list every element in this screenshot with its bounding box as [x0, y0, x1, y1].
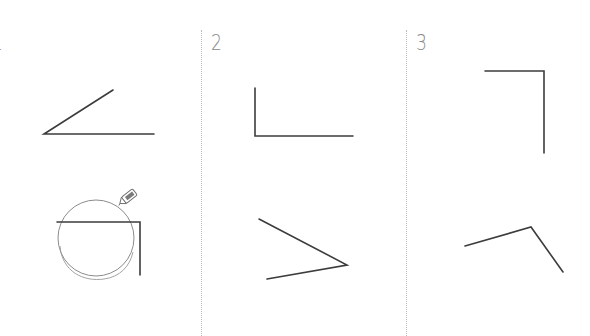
panel-2-angle-bottom: [259, 219, 347, 279]
panel-2-angle-top: [255, 88, 353, 136]
panel-1-angle-bottom: [57, 222, 140, 275]
panel-3: [465, 71, 563, 272]
angles-drawing: [0, 0, 590, 336]
panel-1-angle-top: [44, 90, 154, 134]
panel-2: [255, 88, 353, 279]
panel-3-angle-bottom: [465, 227, 563, 272]
panel-1: [44, 90, 154, 280]
panel-3-angle-top: [485, 71, 544, 153]
compass-circle: [58, 200, 134, 280]
pencil-icon: [116, 189, 137, 208]
